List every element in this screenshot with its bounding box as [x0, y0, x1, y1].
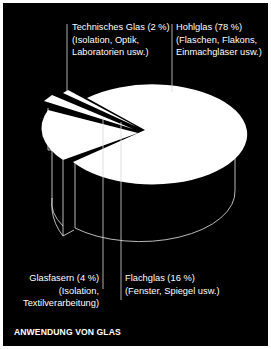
label-technisches-detail-1: (Isolation, Optik, — [72, 34, 170, 47]
label-hohlglas-detail-1: (Flaschen, Flakons, — [176, 34, 262, 47]
label-flachglas-title: Flachglas (16 %) — [125, 272, 220, 285]
label-glasfasern-title: Glasfasern (4 %) — [23, 272, 99, 285]
label-glasfasern-detail-2: Textilverarbeitung) — [23, 297, 99, 310]
chart-title: ANWENDUNG VON GLAS — [14, 327, 121, 337]
label-technisches-glas: Technisches Glas (2 %) (Isolation, Optik… — [72, 21, 170, 59]
label-flachglas-detail-1: (Fenster, Spiegel usw.) — [125, 285, 220, 298]
label-flachglas: Flachglas (16 %) (Fenster, Spiegel usw.) — [125, 272, 220, 297]
label-technisches-detail-2: Laboratorien usw.) — [72, 46, 170, 59]
label-hohlglas: Hohlglas (78 %) (Flaschen, Flakons, Einm… — [176, 21, 262, 59]
label-glasfasern-detail-1: (Isolation, — [23, 285, 99, 298]
label-glasfasern: Glasfasern (4 %) (Isolation, Textilverar… — [23, 272, 99, 310]
label-hohlglas-detail-2: Einmachgläser usw.) — [176, 46, 262, 59]
label-technisches-title: Technisches Glas (2 %) — [72, 21, 170, 34]
label-hohlglas-title: Hohlglas (78 %) — [176, 21, 262, 34]
